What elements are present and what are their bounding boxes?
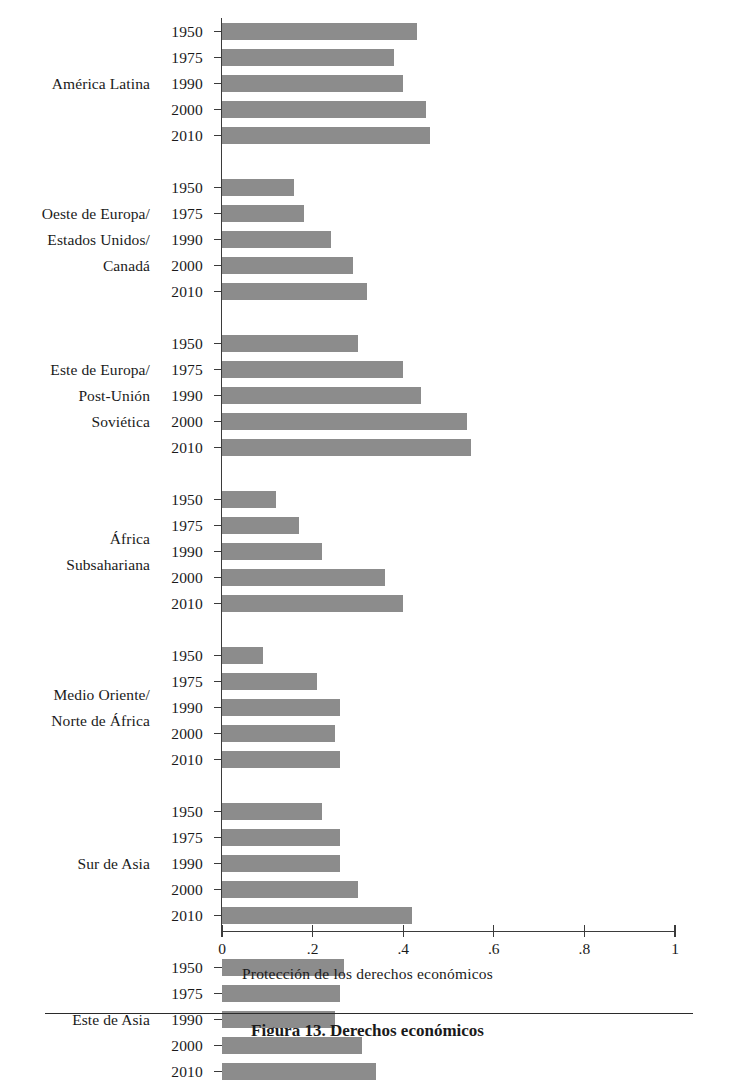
y-axis-tick xyxy=(214,57,222,58)
bar-row: 2000 xyxy=(0,877,735,903)
bar-row: 1975 xyxy=(0,825,735,851)
y-axis-tick xyxy=(214,291,222,292)
figure-caption: Figura 13. Derechos económicos xyxy=(0,1021,735,1036)
bar xyxy=(222,855,340,872)
bar-row: 2000 xyxy=(0,253,735,279)
bar-row-year-label: 1990 xyxy=(155,851,203,877)
bar-row-year-label: 2010 xyxy=(155,591,203,617)
bar-row: 1975 xyxy=(0,981,735,1007)
x-axis-tick xyxy=(584,925,585,937)
bar-row: 1990 xyxy=(0,539,735,565)
bar-row-year-label: 2010 xyxy=(155,435,203,461)
bar xyxy=(222,985,340,1002)
bar-row: 1975 xyxy=(0,513,735,539)
x-axis-tick xyxy=(493,925,494,937)
y-axis-tick xyxy=(214,811,222,812)
bar-row: 2010 xyxy=(0,123,735,149)
bar-row-year-label: 1950 xyxy=(155,487,203,513)
y-axis-tick xyxy=(214,265,222,266)
bar-row-year-label: 1950 xyxy=(155,331,203,357)
bar-row-year-label: 1950 xyxy=(155,19,203,45)
bar-row: 2010 xyxy=(0,747,735,773)
bar-row: 1975 xyxy=(0,669,735,695)
bar-row: 1950 xyxy=(0,19,735,45)
bar xyxy=(222,439,471,456)
bar-row: 2000 xyxy=(0,1033,735,1059)
x-axis-tick-label: 1 xyxy=(655,940,695,958)
bar-group: Medio Oriente/ Norte de África1950197519… xyxy=(0,643,735,773)
caption-divider xyxy=(45,1013,693,1014)
bar-row-year-label: 1950 xyxy=(155,643,203,669)
bar-row-year-label: 2010 xyxy=(155,279,203,305)
bar-row-year-label: 1990 xyxy=(155,695,203,721)
y-axis-tick xyxy=(214,239,222,240)
y-axis-tick xyxy=(214,603,222,604)
bar-row: 1950 xyxy=(0,799,735,825)
bar xyxy=(222,205,304,222)
bar-row: 2010 xyxy=(0,279,735,305)
y-axis-tick xyxy=(214,993,222,994)
y-axis-tick xyxy=(214,83,222,84)
bar xyxy=(222,803,322,820)
y-axis-tick xyxy=(214,1071,222,1072)
bar-row: 2010 xyxy=(0,903,735,929)
bar-row: 1990 xyxy=(0,71,735,97)
x-axis-tick-label: .8 xyxy=(564,940,604,958)
bar-row: 1975 xyxy=(0,45,735,71)
bar xyxy=(222,283,367,300)
bar-row-year-label: 1975 xyxy=(155,513,203,539)
bar-row: 1990 xyxy=(0,383,735,409)
bar xyxy=(222,75,403,92)
bar xyxy=(222,101,426,118)
x-axis-tick xyxy=(403,925,404,937)
bar-row: 1950 xyxy=(0,331,735,357)
bar-row-year-label: 2010 xyxy=(155,1059,203,1084)
x-axis-tick xyxy=(674,925,675,937)
bar-group: Oeste de Europa/ Estados Unidos/ Canadá1… xyxy=(0,175,735,305)
y-axis-tick xyxy=(214,1045,222,1046)
bar xyxy=(222,725,335,742)
x-axis-tick-label: .4 xyxy=(383,940,423,958)
bar xyxy=(222,257,353,274)
y-axis-tick xyxy=(214,577,222,578)
bar-group: Sur de Asia19501975199020002010 xyxy=(0,799,735,929)
bar xyxy=(222,595,403,612)
y-axis-tick xyxy=(214,837,222,838)
bar-row: 2000 xyxy=(0,565,735,591)
bar xyxy=(222,699,340,716)
y-axis-tick xyxy=(214,421,222,422)
bar-row-year-label: 1990 xyxy=(155,539,203,565)
bar xyxy=(222,1037,362,1054)
y-axis-tick xyxy=(214,135,222,136)
x-axis-tick xyxy=(221,925,222,937)
y-axis-tick xyxy=(214,863,222,864)
x-axis-tick-label: .6 xyxy=(474,940,514,958)
x-axis-tick-label: .2 xyxy=(293,940,333,958)
x-axis-tick-label: 0 xyxy=(202,940,242,958)
bar-row-year-label: 2010 xyxy=(155,123,203,149)
bar xyxy=(222,49,394,66)
y-axis-tick xyxy=(214,395,222,396)
y-axis-tick xyxy=(214,369,222,370)
x-axis-title: Protección de los derechos económicos xyxy=(0,965,735,983)
y-axis-tick xyxy=(214,447,222,448)
y-axis-tick xyxy=(214,499,222,500)
y-axis-tick xyxy=(214,213,222,214)
bar xyxy=(222,491,276,508)
bar-row-year-label: 2010 xyxy=(155,903,203,929)
x-axis-tick xyxy=(312,925,313,937)
bar-group: Este de Europa/ Post-Unión Soviética1950… xyxy=(0,331,735,461)
bar-row: 2010 xyxy=(0,1059,735,1084)
bar-row-year-label: 2000 xyxy=(155,1033,203,1059)
bar-row-year-label: 1950 xyxy=(155,799,203,825)
bar-row: 1950 xyxy=(0,643,735,669)
bar-group: América Latina19501975199020002010 xyxy=(0,19,735,149)
bar xyxy=(222,413,467,430)
bar-row: 1975 xyxy=(0,357,735,383)
bar-row-year-label: 1990 xyxy=(155,71,203,97)
bar xyxy=(222,647,263,664)
bar-row-year-label: 2000 xyxy=(155,721,203,747)
bar-row-year-label: 1975 xyxy=(155,201,203,227)
